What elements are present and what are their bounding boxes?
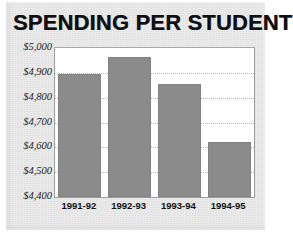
y-axis: $5,000$4,900$4,800$4,700$4,600$4,500$4,4…: [2, 47, 52, 198]
x-axis-tick-label: 1993-94: [154, 200, 204, 211]
x-axis: 1991-921992-931993-941994-95: [54, 199, 255, 215]
y-axis-tick-label: $5,000: [4, 41, 52, 52]
y-axis-tick-label: $4,900: [4, 66, 52, 77]
y-axis-tick-label: $4,400: [4, 190, 52, 201]
x-axis-tick-label: 1994-95: [203, 200, 253, 211]
bar: [158, 84, 201, 197]
bar: [58, 74, 101, 197]
y-axis-tick-label: $4,800: [4, 91, 52, 102]
x-axis-tick-label: 1991-92: [54, 200, 104, 211]
plot-area: [54, 47, 255, 198]
chart-title: SPENDING PER STUDENT: [13, 12, 262, 34]
chart-figure: SPENDING PER STUDENT $5,000$4,900$4,800$…: [0, 0, 273, 247]
bar-series: [55, 48, 254, 197]
y-axis-tick-label: $4,500: [4, 165, 52, 176]
y-axis-tick-label: $4,600: [4, 140, 52, 151]
x-axis-tick-label: 1992-93: [104, 200, 154, 211]
y-axis-tick-label: $4,700: [4, 116, 52, 127]
bar: [108, 57, 151, 197]
bar: [208, 142, 251, 197]
